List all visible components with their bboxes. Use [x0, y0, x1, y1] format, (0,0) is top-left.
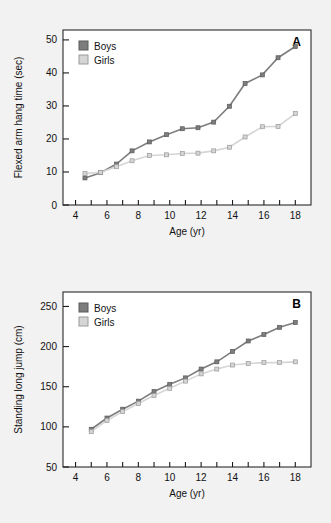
data-point-boys: [293, 321, 297, 325]
x-tick-label: 18: [290, 472, 302, 483]
x-tick-label: 6: [104, 210, 110, 221]
legend-label-girls: Girls: [94, 55, 115, 66]
x-tick-label: 16: [258, 472, 270, 483]
data-point-boys: [196, 126, 200, 130]
y-axis-title: Flexed arm hang time (sec): [13, 57, 24, 179]
data-point-girls: [246, 361, 250, 365]
data-point-girls: [243, 135, 247, 139]
data-point-girls: [293, 112, 297, 116]
y-tick-label: 250: [40, 301, 57, 312]
data-point-girls: [293, 360, 297, 364]
data-point-girls: [231, 363, 235, 367]
data-point-boys: [180, 127, 184, 131]
data-point-girls: [278, 361, 282, 365]
data-point-girls: [121, 410, 125, 414]
x-tick-label: 14: [227, 210, 239, 221]
data-point-girls: [105, 418, 109, 422]
data-point-girls: [212, 149, 216, 153]
data-point-boys: [212, 120, 216, 124]
chart-panel-a: 468101214161801020304050Age (yr)Flexed a…: [0, 0, 331, 261]
y-axis-title: Standing long jump (cm): [13, 325, 24, 433]
x-tick-label: 16: [258, 210, 270, 221]
data-point-girls: [199, 372, 203, 376]
data-point-boys: [260, 73, 264, 77]
data-point-girls: [165, 153, 169, 157]
x-tick-label: 10: [164, 472, 176, 483]
data-point-girls: [215, 367, 219, 371]
data-point-girls: [114, 165, 118, 169]
x-tick-label: 12: [196, 472, 208, 483]
chart-a-svg: 468101214161801020304050Age (yr)Flexed a…: [0, 0, 331, 261]
y-tick-label: 40: [46, 67, 58, 78]
data-point-boys: [147, 140, 151, 144]
y-tick-label: 100: [40, 421, 57, 432]
x-tick-label: 18: [290, 210, 302, 221]
data-point-boys: [278, 325, 282, 329]
legend-label-boys: Boys: [94, 303, 116, 314]
y-tick-label: 50: [46, 34, 58, 45]
x-tick-label: 4: [73, 210, 79, 221]
y-tick-label: 50: [46, 462, 58, 473]
data-point-boys: [199, 367, 203, 371]
x-tick-label: 8: [136, 210, 142, 221]
y-tick-label: 0: [51, 200, 57, 211]
x-tick-label: 10: [164, 210, 176, 221]
legend-swatch-boys: [79, 41, 88, 50]
data-point-girls: [147, 153, 151, 157]
legend-swatch-girls: [79, 55, 88, 64]
data-point-girls: [180, 151, 184, 155]
data-point-boys: [293, 45, 297, 49]
data-point-boys: [246, 339, 250, 343]
chart-b-svg: 468101214161850100150200250Age (yr)Stand…: [0, 261, 331, 523]
y-tick-label: 20: [46, 133, 58, 144]
data-point-girls: [276, 124, 280, 128]
data-point-girls: [183, 379, 187, 383]
data-point-girls: [89, 430, 93, 434]
data-point-boys: [152, 390, 156, 394]
x-tick-label: 12: [196, 210, 208, 221]
data-point-girls: [99, 170, 103, 174]
data-point-boys: [165, 133, 169, 137]
x-tick-label: 8: [136, 472, 142, 483]
data-point-boys: [276, 56, 280, 60]
x-axis-title: Age (yr): [169, 488, 205, 499]
x-tick-label: 14: [227, 472, 239, 483]
data-point-boys: [168, 382, 172, 386]
data-point-girls: [168, 386, 172, 390]
x-tick-label: 6: [104, 472, 110, 483]
panel-label-b: B: [292, 297, 301, 311]
legend-swatch-boys: [79, 303, 88, 312]
chart-panel-b: 468101214161850100150200250Age (yr)Stand…: [0, 261, 331, 523]
data-point-girls: [260, 125, 264, 129]
data-point-boys: [83, 176, 87, 180]
data-point-girls: [262, 361, 266, 365]
data-point-girls: [130, 159, 134, 163]
figure-page: 468101214161801020304050Age (yr)Flexed a…: [0, 0, 331, 523]
data-point-girls: [152, 394, 156, 398]
x-axis-title: Age (yr): [169, 226, 205, 237]
data-point-boys: [262, 333, 266, 337]
x-tick-label: 4: [73, 472, 79, 483]
legend-swatch-girls: [79, 317, 88, 326]
data-point-boys: [130, 149, 134, 153]
data-point-boys: [243, 81, 247, 85]
y-tick-label: 30: [46, 100, 58, 111]
data-point-boys: [231, 349, 235, 353]
data-point-boys: [227, 104, 231, 108]
y-tick-label: 10: [46, 166, 58, 177]
data-point-girls: [227, 145, 231, 149]
legend-label-girls: Girls: [94, 317, 115, 328]
data-point-girls: [83, 172, 87, 176]
y-tick-label: 150: [40, 381, 57, 392]
legend-label-boys: Boys: [94, 41, 116, 52]
data-point-boys: [215, 360, 219, 364]
y-tick-label: 200: [40, 341, 57, 352]
data-point-girls: [136, 402, 140, 406]
data-point-girls: [196, 151, 200, 155]
